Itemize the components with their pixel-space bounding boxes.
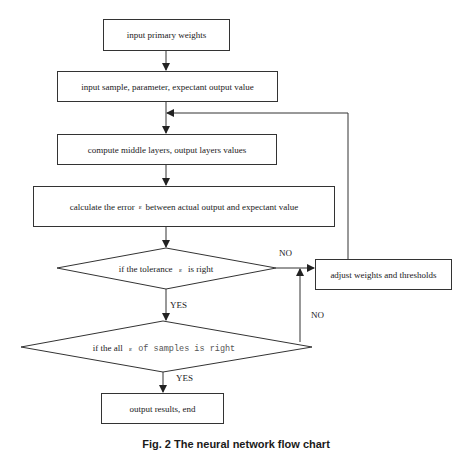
decision-tolerance-text-pre: if the tolerance	[119, 264, 173, 274]
edge-label-tolerance-no: NO	[279, 248, 292, 258]
calculate-error-box: calculate the error ε between actual out…	[33, 186, 335, 227]
input-sample-box: input sample, parameter, expectant outpu…	[57, 71, 278, 102]
compute-layers-box: compute middle layers, output layers val…	[57, 134, 277, 165]
calculate-error-label-pre: calculate the error	[70, 202, 135, 212]
epsilon-symbol: ε	[179, 266, 182, 274]
figure-caption: Fig. 2 The neural network flow chart	[0, 438, 472, 450]
epsilon-symbol: ε	[139, 203, 142, 211]
input-sample-label: input sample, parameter, expectant outpu…	[81, 82, 253, 92]
input-primary-weights-label: input primary weights	[127, 30, 207, 40]
calculate-error-label-post: between actual output and expectant valu…	[146, 202, 299, 212]
edge-label-all-no: NO	[311, 310, 324, 320]
output-results-box: output results, end	[101, 393, 224, 424]
decision-all-text-post: of samples is right	[138, 344, 235, 354]
decision-all-samples-label: if the all ε of samples is right	[93, 343, 235, 354]
output-results-label: output results, end	[129, 404, 195, 414]
epsilon-symbol: ε	[129, 345, 132, 353]
edge-label-tolerance-yes: YES	[170, 300, 187, 310]
edge-label-all-yes: YES	[176, 373, 193, 383]
decision-tolerance-text-post: is right	[188, 264, 213, 274]
decision-tolerance-label: if the tolerance ε is right	[119, 264, 214, 274]
decision-all-text-pre: if the all	[93, 343, 123, 353]
adjust-weights-box: adjust weights and thresholds	[315, 259, 452, 290]
adjust-weights-label: adjust weights and thresholds	[330, 270, 436, 280]
compute-layers-label: compute middle layers, output layers val…	[88, 145, 246, 155]
input-primary-weights-box: input primary weights	[103, 19, 230, 51]
